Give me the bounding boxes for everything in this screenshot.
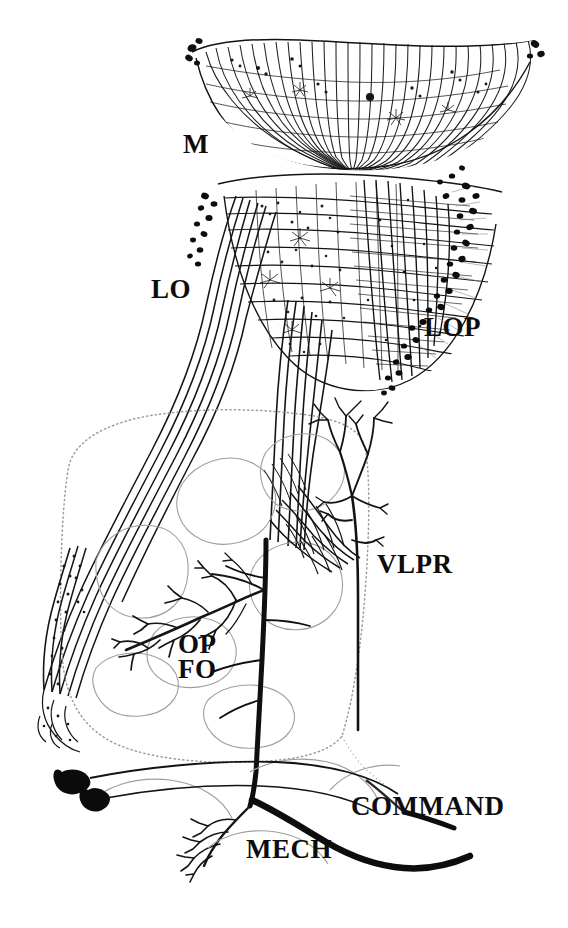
label-lobula-plate: LOP [424,314,481,341]
label-medulla: M [183,131,209,158]
label-ventrolateral-protocerebrum: VLPR [377,551,453,578]
neuroanatomy-figure: M LO LOP VLPR OP FO MECH COMMAND [0,0,568,928]
label-lobula: LO [151,276,191,303]
label-fo: FO [178,656,217,683]
neuron-tracing-drawing [0,0,568,928]
label-command: COMMAND [351,793,504,820]
label-mechanosensory: MECH [246,836,332,863]
